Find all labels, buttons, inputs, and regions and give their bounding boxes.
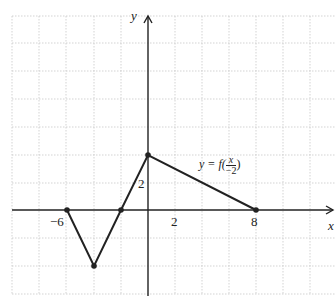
axes <box>12 16 333 296</box>
x-tick-neg6: −6 <box>50 214 64 230</box>
y-tick-2: 2 <box>138 176 145 192</box>
x-tick-2: 2 <box>171 214 178 230</box>
y-axis-label: y <box>131 8 137 24</box>
function-label: y = f(x−2) <box>199 155 240 176</box>
x-axis-label: x <box>328 218 334 234</box>
graph-canvas <box>0 0 335 298</box>
x-tick-8: 8 <box>251 214 258 230</box>
fn-fraction: x−2 <box>226 155 237 176</box>
grid <box>12 16 335 294</box>
fn-denominator: −2 <box>226 166 237 176</box>
fn-prefix: y = f( <box>199 157 226 171</box>
fn-suffix: ) <box>236 157 240 171</box>
